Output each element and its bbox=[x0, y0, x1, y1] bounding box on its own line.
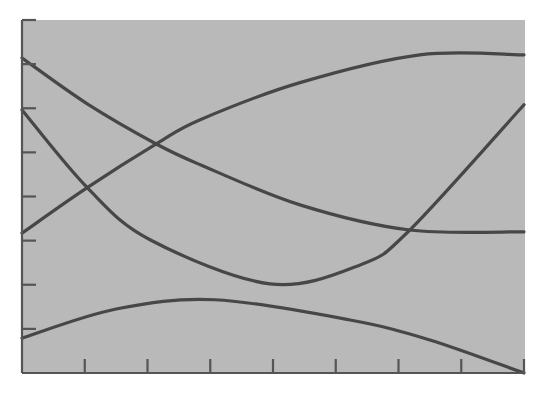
line-chart bbox=[0, 0, 549, 397]
